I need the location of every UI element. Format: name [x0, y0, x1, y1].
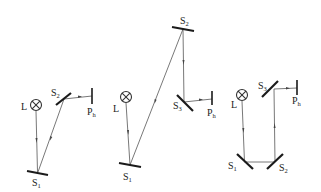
arrow-icon [274, 123, 276, 128]
photodetector-label: Ph [292, 95, 302, 107]
photodetector-label: Ph [87, 106, 97, 118]
mirror-s3-label: S3 [258, 80, 267, 92]
mirror-s2-label: S2 [51, 87, 60, 99]
lamp-icon [237, 90, 248, 101]
mirror-s3-label: S3 [173, 100, 182, 112]
lamp-label: L [21, 101, 27, 112]
beam-s3-to-detector [184, 99, 212, 102]
mirror-s1-label: S1 [32, 177, 41, 189]
diagram-1: L S1 S2 Ph [21, 87, 97, 189]
lamp-icon [31, 100, 42, 111]
mirror-s1-label: S1 [228, 160, 237, 172]
beam-s3-to-detector [274, 88, 297, 89]
arrow-icon [199, 99, 203, 102]
photodetector-label: Ph [207, 107, 217, 119]
beam-s1-to-s2 [130, 29, 183, 165]
arrow-icon [155, 99, 157, 104]
arrow-icon [183, 60, 185, 65]
arrow-icon [50, 136, 52, 141]
mirror-s1-label: S1 [123, 171, 132, 183]
mirror-s1 [237, 154, 253, 169]
lamp-label: L [113, 103, 119, 114]
lamp-icon [121, 92, 132, 103]
lamp-label: L [231, 99, 237, 110]
optical-setups-figure: L S1 S2 Ph L S1 S2 S3 Ph [0, 0, 321, 192]
diagram-2: L S1 S2 S3 Ph [113, 15, 217, 183]
beam-s1-to-s2 [38, 99, 64, 172]
arrow-icon [286, 87, 290, 90]
mirror-s2-label: S2 [279, 162, 288, 174]
diagram-3: L S1 S2 S3 Ph [228, 80, 302, 174]
mirror-s2-label: S2 [180, 15, 189, 27]
beam-lamp-to-s1 [126, 103, 130, 165]
arrow-icon [36, 138, 38, 143]
beam-s2-to-s3 [183, 29, 184, 102]
